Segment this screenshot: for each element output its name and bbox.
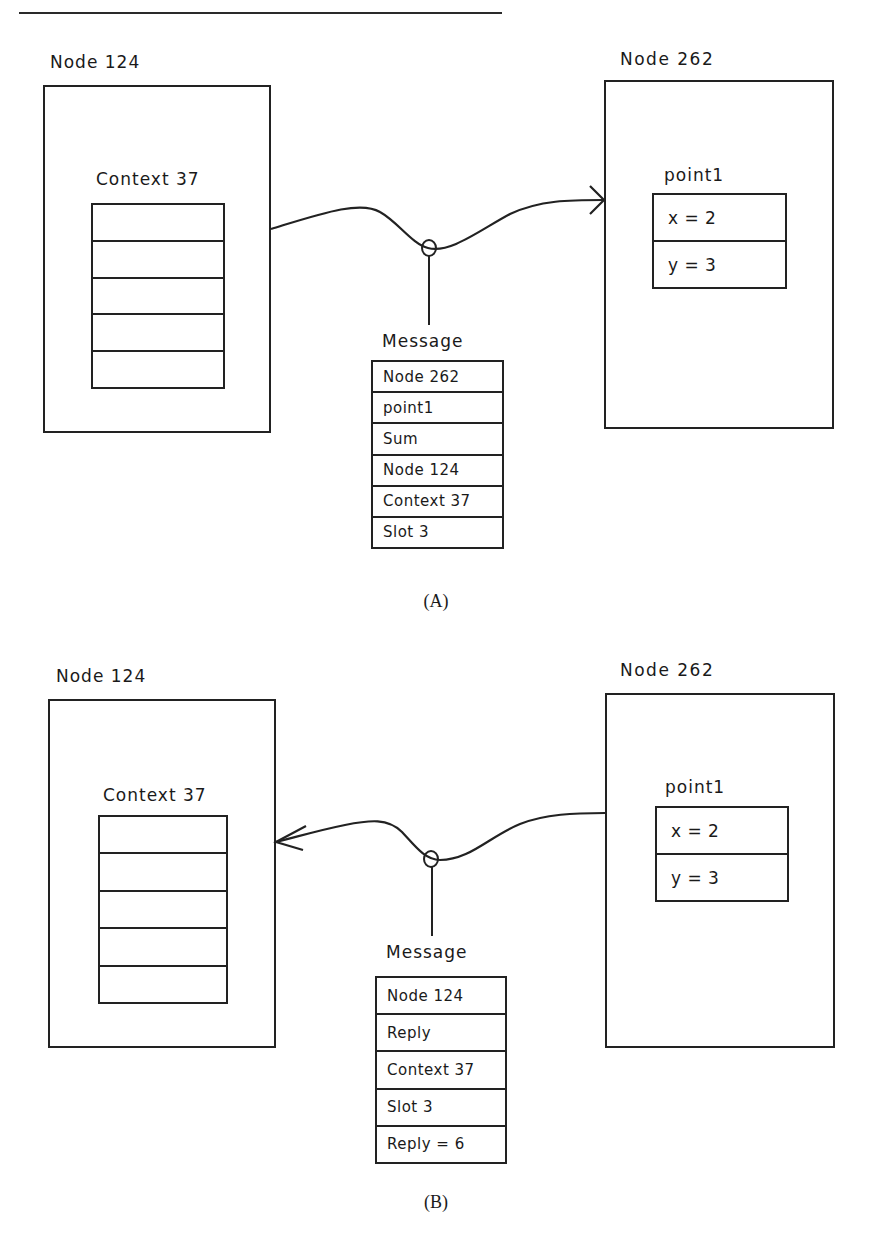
message-field: Node 262 [373,362,502,391]
message-field: Slot 3 [377,1088,505,1125]
message-field: Node 124 [373,454,502,485]
panel-caption: (B) [396,1192,476,1213]
message-field: point1 [373,391,502,422]
diagram-panel-a: Node 124 Context 37 Node 262 point1 x = … [0,0,874,610]
message-field: Reply = 6 [377,1125,505,1162]
message-field: Slot 3 [373,516,502,547]
message-table: Node 124 Reply Context 37 Slot 3 Reply =… [375,976,507,1164]
diagram-panel-b: Node 124 Context 37 Node 262 point1 x = … [0,610,874,1244]
message-field: Sum [373,422,502,453]
message-field: Context 37 [377,1050,505,1087]
message-field: Context 37 [373,485,502,516]
message-label: Message [386,942,468,962]
message-field: Reply [377,1013,505,1050]
panel-caption: (A) [396,591,476,612]
message-field: Node 124 [377,978,505,1013]
message-table: Node 262 point1 Sum Node 124 Context 37 … [371,360,504,549]
message-label: Message [382,331,464,351]
